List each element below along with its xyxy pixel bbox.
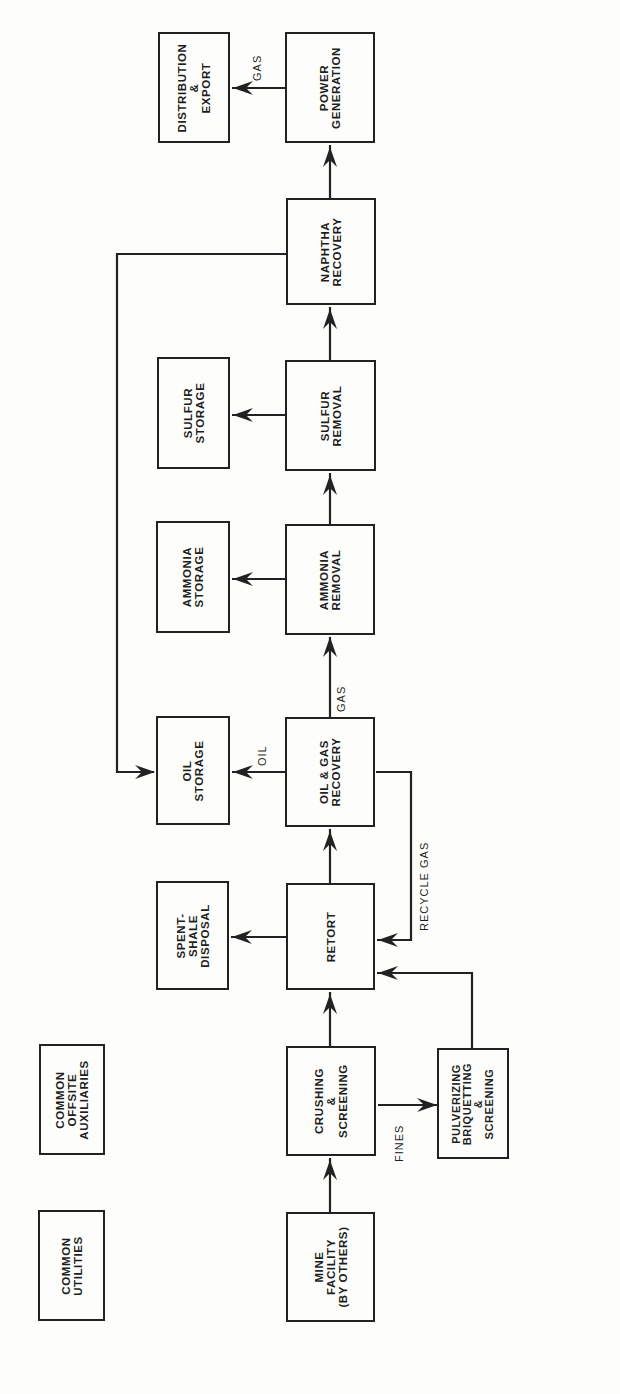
block-label: SPENT- SHALE DISPOSAL bbox=[175, 904, 211, 968]
block-oil-storage: OIL STORAGE bbox=[156, 716, 230, 825]
block-label: OIL STORAGE bbox=[181, 740, 205, 801]
block-label: MINE FACILITY (BY OTHERS) bbox=[313, 1226, 349, 1307]
flow-label-gas-main: GAS bbox=[335, 686, 347, 712]
block-sulfur-storage: SULFUR STORAGE bbox=[157, 357, 230, 469]
edge-naphtha-to-oilstorage bbox=[117, 254, 286, 772]
block-common-utilities: COMMON UTILITIES bbox=[38, 1210, 105, 1321]
edge-recycle-gas bbox=[376, 772, 411, 940]
block-sulfur-removal: SULFUR REMOVAL bbox=[285, 360, 376, 471]
block-spent-shale-disposal: SPENT- SHALE DISPOSAL bbox=[156, 881, 229, 990]
process-flow-diagram: MINE FACILITY (BY OTHERS) CRUSHING & SCR… bbox=[0, 0, 620, 1394]
block-label: POWER GENERATION bbox=[318, 47, 342, 129]
block-retort: RETORT bbox=[286, 883, 375, 990]
block-ammonia-storage: AMMONIA STORAGE bbox=[156, 521, 230, 633]
block-label: DISTRIBUTION & EXPORT bbox=[176, 43, 212, 132]
block-label: OIL & GAS RECOVERY bbox=[318, 738, 342, 807]
block-distribution-export: DISTRIBUTION & EXPORT bbox=[158, 32, 230, 143]
flow-label-gas-export: GAS bbox=[251, 55, 263, 81]
block-label: NAPHTHA RECOVERY bbox=[319, 217, 343, 286]
block-label: RETORT bbox=[325, 911, 337, 962]
block-label: SULFUR REMOVAL bbox=[319, 385, 343, 446]
block-label: COMMON OFFSITE AUXILIARIES bbox=[54, 1060, 90, 1139]
block-common-offsite-auxiliaries: COMMON OFFSITE AUXILIARIES bbox=[39, 1044, 105, 1155]
block-label: PULVERIZING BRIQUETTING & SCREENING bbox=[451, 1062, 495, 1144]
block-label: SULFUR STORAGE bbox=[182, 383, 206, 444]
block-label: CRUSHING & SCREENING bbox=[313, 1064, 349, 1138]
block-mine-facility: MINE FACILITY (BY OTHERS) bbox=[286, 1212, 375, 1322]
block-label: COMMON UTILITIES bbox=[60, 1236, 84, 1296]
block-oil-gas-recovery: OIL & GAS RECOVERY bbox=[285, 717, 375, 827]
block-power-generation: POWER GENERATION bbox=[285, 32, 375, 143]
flow-label-recycle-gas: RECYCLE GAS bbox=[418, 842, 430, 931]
block-label: AMMONIA REMOVAL bbox=[318, 549, 342, 610]
block-naphtha-recovery: NAPHTHA RECOVERY bbox=[286, 198, 376, 305]
block-ammonia-removal: AMMONIA REMOVAL bbox=[285, 524, 375, 635]
block-label: AMMONIA STORAGE bbox=[181, 547, 205, 608]
flow-label-oil: OIL bbox=[256, 745, 268, 766]
flow-label-fines: FINES bbox=[393, 1125, 405, 1162]
edge-pulverizing-to-retort bbox=[377, 973, 472, 1048]
block-crushing-screening: CRUSHING & SCREENING bbox=[286, 1046, 376, 1156]
block-pulverizing-briquetting-screening: PULVERIZING BRIQUETTING & SCREENING bbox=[437, 1048, 509, 1159]
